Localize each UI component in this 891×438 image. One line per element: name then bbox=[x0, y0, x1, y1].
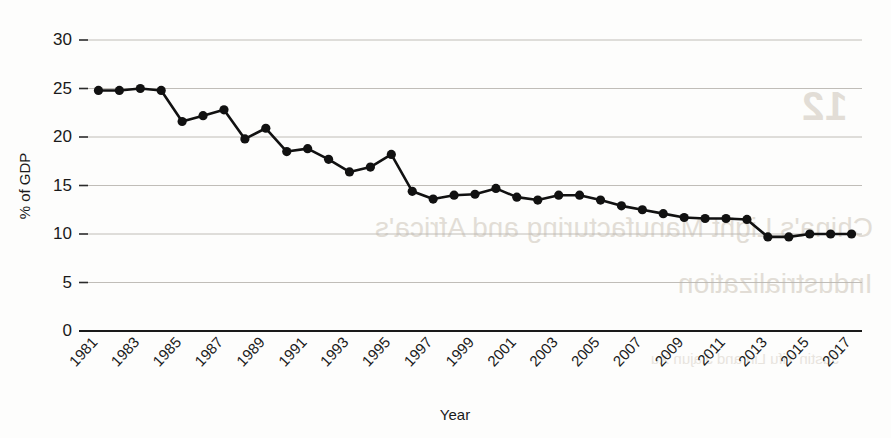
x-tick-label: 2011 bbox=[694, 333, 728, 368]
data-point-marker bbox=[826, 229, 835, 238]
data-point-marker bbox=[303, 144, 312, 153]
x-tick-label: 1989 bbox=[233, 333, 268, 369]
data-point-marker bbox=[387, 150, 396, 159]
data-point-marker bbox=[533, 195, 542, 204]
x-tick-label: 1985 bbox=[149, 333, 184, 369]
data-point-marker bbox=[449, 191, 458, 200]
line-chart: 051015202530 198119831985198719891991199… bbox=[0, 0, 891, 438]
data-point-marker bbox=[680, 213, 689, 222]
y-tick-labels-group: 051015202530 bbox=[53, 30, 72, 340]
x-tick-labels-group: 1981198319851987198919911993199519971999… bbox=[65, 333, 853, 369]
data-point-marker bbox=[575, 191, 584, 200]
data-point-marker bbox=[240, 134, 249, 143]
x-tick-label: 1983 bbox=[107, 333, 142, 369]
data-point-marker bbox=[115, 86, 124, 95]
data-point-marker bbox=[805, 229, 814, 238]
data-point-marker bbox=[491, 184, 500, 193]
y-axis-title: % of GDP bbox=[16, 153, 33, 220]
x-tick-label: 2017 bbox=[819, 333, 854, 369]
data-point-marker bbox=[136, 84, 145, 93]
data-point-marker bbox=[282, 147, 291, 156]
y-tick-label: 10 bbox=[53, 224, 72, 243]
y-tick-label: 25 bbox=[53, 79, 72, 98]
gridlines-group bbox=[88, 40, 862, 283]
y-tick-label: 20 bbox=[53, 127, 72, 146]
data-point-marker bbox=[659, 209, 668, 218]
x-axis-title: Year bbox=[440, 406, 470, 423]
data-line bbox=[98, 89, 851, 237]
data-point-marker bbox=[512, 193, 521, 202]
y-tick-label: 0 bbox=[63, 321, 72, 340]
x-tick-label: 2001 bbox=[484, 333, 519, 369]
data-point-marker bbox=[701, 214, 710, 223]
y-tick-label: 30 bbox=[53, 30, 72, 49]
data-point-marker bbox=[847, 229, 856, 238]
data-point-marker bbox=[178, 117, 187, 126]
data-point-marker bbox=[470, 190, 479, 199]
x-tick-label: 1987 bbox=[191, 333, 226, 369]
data-point-marker bbox=[345, 167, 354, 176]
x-tick-label: 1997 bbox=[400, 333, 435, 369]
data-point-marker bbox=[408, 187, 417, 196]
data-point-marker bbox=[763, 232, 772, 241]
x-tick-label: 2013 bbox=[735, 333, 770, 369]
data-point-marker bbox=[596, 195, 605, 204]
data-series-line-group bbox=[98, 89, 851, 237]
data-point-marker bbox=[198, 111, 207, 120]
data-point-marker bbox=[94, 86, 103, 95]
x-tick-label: 2009 bbox=[651, 333, 686, 369]
x-tick-label: 2015 bbox=[777, 333, 812, 369]
data-point-marker bbox=[261, 124, 270, 133]
data-point-marker bbox=[554, 191, 563, 200]
x-tick-label: 1995 bbox=[358, 333, 393, 369]
y-tick-label: 15 bbox=[53, 176, 72, 195]
data-point-marker bbox=[157, 86, 166, 95]
data-point-marker bbox=[429, 194, 438, 203]
x-tick-label: 1999 bbox=[442, 333, 477, 369]
data-series-markers-group bbox=[94, 84, 856, 242]
x-tick-label: 2005 bbox=[568, 333, 603, 369]
x-tick-label: 1991 bbox=[275, 333, 310, 369]
data-point-marker bbox=[617, 201, 626, 210]
data-point-marker bbox=[721, 214, 730, 223]
y-tick-label: 5 bbox=[63, 273, 72, 292]
data-point-marker bbox=[638, 205, 647, 214]
y-tick-marks-group bbox=[79, 40, 88, 331]
data-point-marker bbox=[366, 162, 375, 171]
data-point-marker bbox=[219, 105, 228, 114]
x-tick-label: 2003 bbox=[526, 333, 561, 369]
data-point-marker bbox=[784, 232, 793, 241]
x-tick-label: 2007 bbox=[609, 333, 644, 369]
chart-svg: 051015202530 198119831985198719891991199… bbox=[0, 0, 891, 438]
data-point-marker bbox=[742, 215, 751, 224]
x-tick-label: 1993 bbox=[316, 333, 351, 369]
chart-page: 12 China's Light Manufacturing and Afric… bbox=[0, 0, 891, 438]
data-point-marker bbox=[324, 155, 333, 164]
